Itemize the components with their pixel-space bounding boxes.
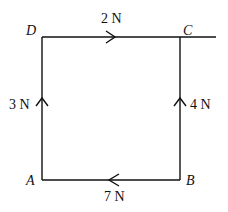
vertex-a-label: A bbox=[26, 174, 35, 188]
vertex-c-label: C bbox=[183, 24, 192, 38]
vertex-d-label: D bbox=[26, 24, 36, 38]
force-bc-label: 4 N bbox=[190, 98, 211, 112]
force-ba-label: 7 N bbox=[104, 190, 125, 204]
vertex-b-label: B bbox=[186, 174, 195, 188]
force-dc-label: 2 N bbox=[101, 12, 122, 26]
force-ad-label: 3 N bbox=[9, 98, 30, 112]
